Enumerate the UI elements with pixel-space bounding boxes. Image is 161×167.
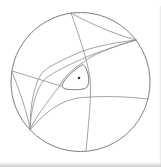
separatrix-hugging-limit-cycle (31, 40, 136, 128)
separatrix-left-to-lower-cusp (13, 73, 31, 129)
separatrix-right-cusp-outer (30, 40, 136, 129)
separatrix-right-cusp-inner (30, 40, 136, 129)
equilibrium-dot (78, 77, 81, 80)
separatrix-vertical-top-to-bottom (71, 13, 91, 152)
separatrix-chord-top-to-right-cusp (71, 13, 136, 40)
phase-portrait-figure (0, 0, 161, 167)
diagram-page (0, 0, 161, 167)
limit-cycle-triangle (62, 65, 89, 90)
boundary-circle (11, 13, 150, 152)
